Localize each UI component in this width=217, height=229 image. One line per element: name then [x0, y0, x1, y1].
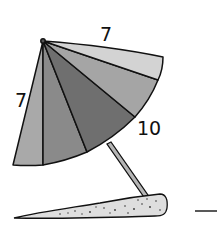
umbrella-canopy — [13, 39, 163, 166]
umbrella-diagram: 7 7 10 — [0, 0, 217, 229]
label-slant-left: 7 — [15, 89, 27, 111]
umbrella-pole — [107, 142, 150, 200]
label-radius-right: 10 — [137, 117, 161, 139]
label-slant-top: 7 — [100, 23, 112, 45]
sand-mound — [14, 194, 167, 218]
